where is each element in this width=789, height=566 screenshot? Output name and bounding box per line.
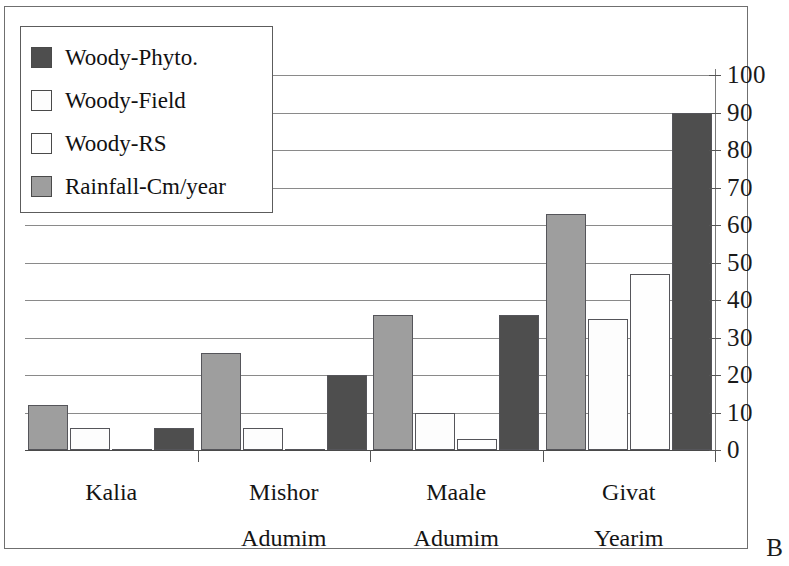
bar-mishor-adumim-woody-field <box>243 428 283 451</box>
bar-kalia-woody-rs <box>112 449 152 450</box>
y-axis-label: 40 <box>727 287 753 312</box>
y-tick-mark-90 <box>709 113 721 114</box>
legend-item-label: Woody-RS <box>65 132 167 155</box>
legend-swatch-rainfall <box>31 176 52 197</box>
category-label-line2: Adumim <box>370 523 543 553</box>
x-axis-category-label: Kalia <box>25 477 198 507</box>
y-axis-label: 10 <box>727 400 753 425</box>
y-tick-mark-60 <box>709 225 721 226</box>
legend-item-label: Woody-Field <box>65 89 186 112</box>
category-label-line1: Mishor <box>198 477 371 507</box>
panel-letter: B <box>766 535 783 560</box>
legend-item: Woody-RS <box>31 122 272 165</box>
y-tick-mark-50 <box>709 263 721 264</box>
legend-item: Woody-Field <box>31 79 272 122</box>
y-tick-mark-80 <box>709 150 721 151</box>
y-tick-mark-40 <box>709 300 721 301</box>
bar-givat-yearim-rainfall-cm-year <box>546 214 586 450</box>
bar-kalia-woody-field <box>70 428 110 451</box>
y-axis-label: 80 <box>727 137 753 162</box>
legend-swatch-woody-field <box>31 90 52 111</box>
x-axis-category-label: MaaleAdumim <box>370 477 543 553</box>
x-axis-category-label: GivatYearim <box>543 477 716 553</box>
bar-mishor-adumim-woody-phyto <box>327 375 367 450</box>
bar-givat-yearim-woody-rs <box>630 274 670 450</box>
gridline-40 <box>25 300 715 301</box>
legend-item: Woody-Phyto. <box>31 36 272 79</box>
x-axis-group-tick <box>715 450 716 462</box>
bar-givat-yearim-woody-phyto <box>672 113 712 451</box>
category-label-line1: Kalia <box>25 477 198 507</box>
y-axis-label: 50 <box>727 250 753 275</box>
bar-mishor-adumim-rainfall-cm-year <box>201 353 241 451</box>
gridline-50 <box>25 263 715 264</box>
bar-kalia-woody-phyto <box>154 428 194 451</box>
y-axis-label: 70 <box>727 175 753 200</box>
bar-maale-adumim-woody-phyto <box>499 315 539 450</box>
gridline-60 <box>25 225 715 226</box>
x-axis-category-label: MishorAdumim <box>198 477 371 553</box>
legend-item-label: Rainfall-Cm/year <box>65 175 226 198</box>
y-axis-label: 0 <box>727 437 740 462</box>
chart-root: 1009080706050403020100 KaliaMishorAdumim… <box>0 0 789 566</box>
x-axis-group-tick <box>198 450 199 462</box>
y-axis-label: 30 <box>727 325 753 350</box>
legend-item: Rainfall-Cm/year <box>31 165 272 208</box>
chart-legend: Woody-Phyto.Woody-FieldWoody-RSRainfall-… <box>20 26 273 213</box>
legend-swatch-woody-rs <box>31 133 52 154</box>
category-label-line2: Adumim <box>198 523 371 553</box>
y-tick-mark-100 <box>709 75 721 76</box>
y-axis-label: 60 <box>727 212 753 237</box>
bar-maale-adumim-woody-rs <box>457 439 497 450</box>
y-tick-mark-30 <box>709 338 721 339</box>
bar-maale-adumim-rainfall-cm-year <box>373 315 413 450</box>
y-axis-label: 100 <box>727 62 766 87</box>
y-axis-label: 90 <box>727 100 753 125</box>
chart-frame: 1009080706050403020100 KaliaMishorAdumim… <box>4 6 748 549</box>
y-tick-mark-70 <box>709 188 721 189</box>
x-axis-group-tick <box>543 450 544 462</box>
category-label-line2: Yearim <box>543 523 716 553</box>
legend-item-label: Woody-Phyto. <box>65 46 198 69</box>
y-axis-label: 20 <box>727 362 753 387</box>
bar-mishor-adumim-woody-rs <box>285 449 325 450</box>
bar-maale-adumim-woody-field <box>415 413 455 451</box>
bar-givat-yearim-woody-field <box>588 319 628 450</box>
legend-swatch-woody-phyto <box>31 47 52 68</box>
category-label-line1: Maale <box>370 477 543 507</box>
bar-kalia-rainfall-cm-year <box>28 405 68 450</box>
x-axis-group-tick <box>370 450 371 462</box>
y-tick-mark-20 <box>709 375 721 376</box>
category-label-line1: Givat <box>543 477 716 507</box>
y-tick-mark-10 <box>709 413 721 414</box>
